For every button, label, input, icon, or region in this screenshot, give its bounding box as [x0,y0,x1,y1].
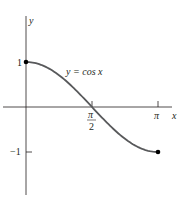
x-tick-label-half-pi-num: π [88,109,94,120]
x-tick-label-pi: π [154,110,160,121]
end-point [156,150,161,155]
start-point [24,60,29,65]
y-tick-label-one: 1 [17,57,22,68]
curve-label: y = cos x [65,66,103,77]
x-tick-label-half-pi-den: 2 [89,121,94,132]
y-axis-label: y [28,15,34,26]
y-tick-label-neg-one: −1 [10,146,21,157]
x-axis-label: x [171,110,177,121]
cosine-chart: y x 1 −1 y = cos x π π 2 [0,0,182,209]
